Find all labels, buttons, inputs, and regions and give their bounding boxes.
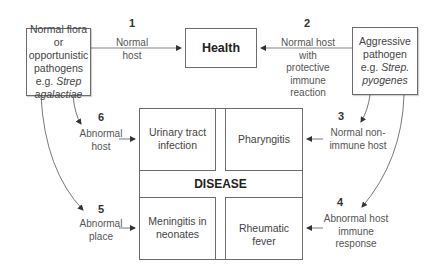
disease-cell-pharyngitis: Pharyngitis [226,133,302,146]
source-box-normal-flora: Normal flora or opportunistic pathogens … [26,28,91,96]
disease-cell-meningitis-in-neonates: Meningitis in neonates [140,215,215,241]
disease-cell-urinary-tract-infection: Urinary tract infection [140,126,215,152]
pathway-number-2: 2 [297,17,317,29]
source-box-aggressive-pathogen: Aggressive pathogen e.g. Strep. pyogenes [352,27,418,95]
pathway-label-3: Normal non- immune host [326,127,390,152]
pathway-number-4: 4 [330,196,350,208]
health-box: Health [185,28,257,68]
pathway-number-3: 3 [331,110,351,122]
pathway-label-2: Normal host with protective immune react… [271,37,345,100]
pathway-label-4: Abnormal host immune response [320,213,392,251]
pathway-label-1: Normal host [108,37,156,62]
pathway-number-6: 6 [91,111,111,123]
pathway-label-6: Abnormal host [76,128,126,153]
curve-to-3 [361,95,370,122]
pathway-label-5: Abnormal place [76,218,126,243]
pathway-number-1: 1 [122,17,142,29]
disease-cell-rheumatic-fever: Rheumatic fever [226,222,302,247]
disease-title: DISEASE [139,177,302,191]
curve-to-5 [41,96,83,210]
pathway-number-5: 5 [91,203,111,215]
